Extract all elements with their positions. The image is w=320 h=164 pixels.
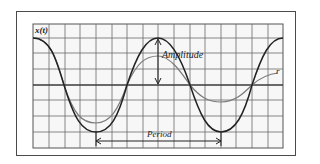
y-axis-label: x(t) xyxy=(35,25,48,35)
period-label: Period xyxy=(147,129,172,139)
amplitude-label: Amplitude xyxy=(162,49,203,60)
decay-curve-label: r xyxy=(276,66,280,76)
